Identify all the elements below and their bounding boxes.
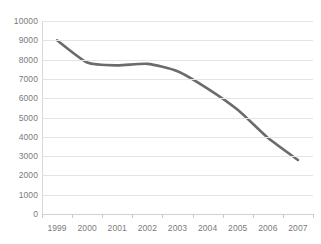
y-tick-label: 10000: [2, 17, 38, 26]
x-tick-label: 2002: [138, 224, 157, 233]
gridline: [42, 79, 313, 80]
plot-area: [42, 21, 313, 214]
x-tick-label: 2005: [228, 224, 247, 233]
gridline: [42, 156, 313, 157]
x-tick: [42, 214, 43, 218]
y-tick-label: 4000: [2, 133, 38, 142]
series-path: [57, 40, 298, 160]
x-tick: [132, 214, 133, 218]
x-tick: [162, 214, 163, 218]
line-chart: 0100020003000400050006000700080009000100…: [0, 0, 321, 244]
y-tick-label: 2000: [2, 171, 38, 180]
x-tick: [223, 214, 224, 218]
gridline: [42, 60, 313, 61]
y-axis-labels: 0100020003000400050006000700080009000100…: [0, 0, 38, 244]
y-tick-label: 5000: [2, 114, 38, 123]
gridline: [42, 118, 313, 119]
gridline: [42, 195, 313, 196]
y-tick-label: 1000: [2, 191, 38, 200]
x-tick: [193, 214, 194, 218]
x-axis-ticks: [42, 214, 313, 219]
x-tick: [102, 214, 103, 218]
x-tick: [253, 214, 254, 218]
x-axis-labels: 199920002001200220032004200520062007: [42, 224, 313, 238]
y-tick-label: 9000: [2, 36, 38, 45]
y-tick-label: 6000: [2, 94, 38, 103]
gridline: [42, 175, 313, 176]
gridline: [42, 137, 313, 138]
y-tick-label: 8000: [2, 56, 38, 65]
x-tick-label: 2007: [288, 224, 307, 233]
y-tick-label: 0: [2, 210, 38, 219]
x-tick-label: 2001: [108, 224, 127, 233]
y-tick-label: 7000: [2, 75, 38, 84]
x-tick-label: 2006: [258, 224, 277, 233]
x-tick-label: 1999: [47, 224, 66, 233]
x-tick: [283, 214, 284, 218]
x-tick-label: 2004: [198, 224, 217, 233]
x-tick-label: 2000: [78, 224, 97, 233]
gridline: [42, 21, 313, 22]
gridline: [42, 40, 313, 41]
gridline: [42, 98, 313, 99]
y-tick-label: 3000: [2, 152, 38, 161]
x-tick: [313, 214, 314, 218]
x-tick-label: 2003: [168, 224, 187, 233]
x-tick: [72, 214, 73, 218]
